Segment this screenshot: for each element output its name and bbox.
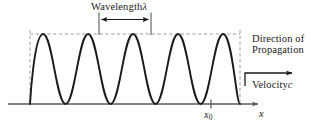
direction-line-1: Direction of — [252, 33, 304, 44]
wavelength-measure — [99, 13, 151, 36]
wave-diagram-canvas — [0, 0, 330, 132]
wavelength-label-text: Wavelength — [91, 1, 142, 12]
velocity-symbol: c — [288, 79, 293, 90]
x-zero-subscript: 0 — [209, 113, 213, 122]
velocity-label: Velocityc — [252, 79, 293, 90]
x-axis-label: x — [259, 108, 264, 119]
lambda-symbol: λ — [142, 1, 147, 12]
wave-curve — [30, 34, 240, 104]
wavelength-label: Wavelengthλ — [91, 1, 147, 12]
wave-diagram-figure: Wavelengthλ Direction of Propagation Vel… — [0, 0, 330, 132]
velocity-label-text: Velocity — [252, 79, 288, 90]
envelope-dashed-box — [30, 30, 240, 104]
direction-line-2: Propagation — [252, 44, 304, 55]
x-zero-label: x0 — [204, 109, 212, 122]
direction-of-propagation-label: Direction of Propagation — [252, 33, 304, 56]
